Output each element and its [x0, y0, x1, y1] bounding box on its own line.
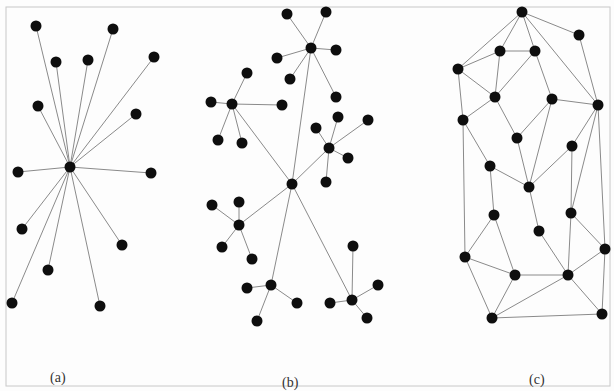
edge-a-c-n11 [70, 167, 122, 245]
node-a-n9 [146, 168, 157, 179]
panel-c-mesh-network: (c) [453, 7, 611, 389]
edge-c-O-T [568, 213, 571, 275]
node-b-h4c [217, 242, 228, 253]
node-b-h1f [331, 92, 342, 103]
node-a-n1 [31, 21, 42, 32]
edge-a-c-n5 [70, 57, 154, 167]
node-c-I [458, 115, 469, 126]
edge-c-A-C [500, 12, 522, 51]
edge-b-h3-h3c [329, 120, 368, 148]
node-b-h6d [362, 313, 373, 324]
figure-frame [6, 7, 610, 386]
node-b-h2a [206, 97, 217, 108]
node-b-h1e [285, 74, 296, 85]
edge-c-I-L [463, 120, 490, 166]
node-b-h1 [306, 43, 317, 54]
node-b-h6 [347, 295, 358, 306]
node-c-B [574, 30, 585, 41]
edge-c-L-M [490, 166, 529, 187]
edge-c-N-S [494, 215, 515, 275]
edge-a-c-n7 [70, 114, 136, 167]
node-b-h4a [207, 200, 218, 211]
edge-c-H-R [598, 105, 605, 249]
panel-c-label: (c) [529, 372, 545, 388]
node-b-h4 [234, 220, 245, 231]
edge-c-K-O [571, 146, 572, 213]
edge-a-c-n2 [70, 29, 113, 167]
node-b-h3d [343, 153, 354, 164]
edge-c-A-B [522, 12, 579, 35]
edge-c-A-H [522, 12, 598, 105]
node-b-h4d [247, 254, 258, 265]
panel-b-label: (b) [282, 375, 299, 391]
panel-a-label: (a) [50, 370, 66, 386]
edge-c-T-V [568, 275, 602, 314]
node-a-n13 [7, 298, 18, 309]
edge-c-E-F [458, 69, 495, 97]
node-b-h3b [333, 112, 344, 123]
edge-c-P-T [539, 231, 568, 275]
edge-c-D-F [495, 51, 535, 97]
edge-b-h2-h2d [218, 104, 232, 140]
node-c-A [517, 7, 528, 18]
edge-c-A-E [458, 12, 522, 69]
node-a-n6 [33, 101, 44, 112]
edge-c-T-R [568, 249, 605, 275]
edge-c-Q-S [465, 257, 515, 275]
node-b-h6c [325, 298, 336, 309]
node-c-T [563, 270, 574, 281]
edge-a-c-n6 [38, 106, 70, 167]
edge-c-M-P [529, 187, 539, 231]
edge-c-Q-U [465, 257, 492, 318]
edge-b-h2-h2c [232, 104, 282, 105]
node-b-h3e [321, 177, 332, 188]
edge-a-c-n1 [36, 26, 70, 167]
node-b-h5a [242, 283, 253, 294]
edge-b-c-h1 [292, 48, 311, 184]
edge-a-c-n9 [70, 167, 151, 173]
edge-c-E-I [458, 69, 463, 120]
edge-b-h5-h5c [257, 285, 271, 321]
node-b-h1a [282, 9, 293, 20]
node-b-c [287, 179, 298, 190]
edge-b-h1-h1f [311, 48, 336, 97]
edge-c-K-M [529, 146, 572, 187]
node-c-C [495, 46, 506, 57]
edge-b-c-h5 [271, 184, 292, 285]
edge-a-c-n13 [12, 167, 70, 303]
node-b-h3c [363, 115, 374, 126]
node-c-P [534, 226, 545, 237]
node-b-h5 [266, 280, 277, 291]
node-a-n7 [131, 109, 142, 120]
node-c-N [489, 210, 500, 221]
node-b-h5c [252, 316, 263, 327]
node-a-n2 [108, 24, 119, 35]
edge-c-C-F [495, 51, 500, 97]
node-b-h4b [234, 197, 245, 208]
node-b-h5b [292, 298, 303, 309]
edge-a-c-n12 [48, 167, 70, 270]
node-c-V [597, 309, 608, 320]
edge-c-A-D [522, 12, 535, 51]
edge-c-G-H [552, 99, 598, 105]
node-c-F [490, 92, 501, 103]
panel-b-hierarchical-network: (b) [206, 7, 384, 391]
edge-c-I-Q [463, 120, 465, 257]
edge-b-h1-h1e [290, 48, 311, 79]
edge-a-c-n3 [56, 62, 70, 167]
edge-c-B-H [579, 35, 598, 105]
node-b-h2c [277, 100, 288, 111]
edge-c-L-N [490, 166, 494, 215]
edge-c-O-R [571, 213, 605, 249]
edge-c-D-G [535, 51, 552, 99]
network-topology-figure: (a) (b) (c) [0, 0, 614, 391]
node-b-h2e [237, 138, 248, 149]
edge-c-R-V [602, 249, 605, 314]
node-b-h6b [373, 280, 384, 291]
node-b-h3a [311, 123, 322, 134]
node-b-h6a [348, 241, 359, 252]
node-c-Q [460, 252, 471, 263]
edge-c-F-I [463, 97, 495, 120]
edge-c-N-Q [465, 215, 494, 257]
node-c-U [487, 313, 498, 324]
